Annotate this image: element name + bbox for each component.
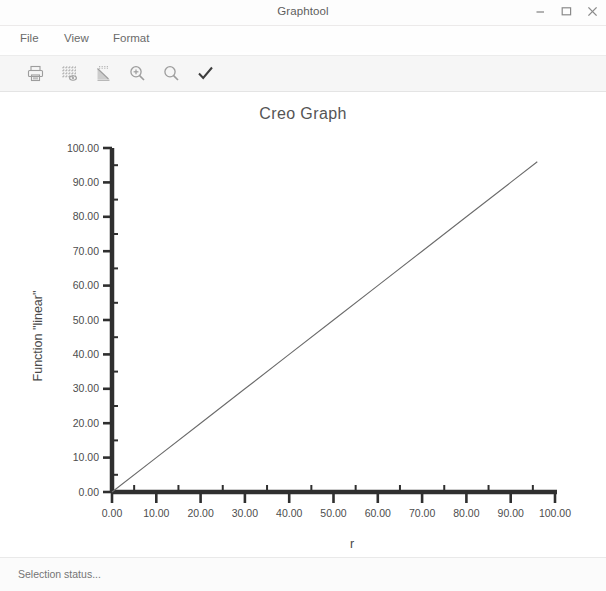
accept-button[interactable] xyxy=(192,61,218,87)
svg-text:20.00: 20.00 xyxy=(73,417,99,429)
svg-text:70.00: 70.00 xyxy=(409,507,435,519)
status-text: Selection status... xyxy=(18,568,101,580)
chart-svg: 0.0010.0020.0030.0040.0050.0060.0070.008… xyxy=(0,93,606,557)
close-button[interactable] xyxy=(585,4,600,19)
window-controls xyxy=(533,4,600,19)
svg-text:60.00: 60.00 xyxy=(73,279,99,291)
svg-text:50.00: 50.00 xyxy=(73,314,99,326)
checkmark-icon xyxy=(196,64,215,83)
svg-text:100.00: 100.00 xyxy=(539,507,571,519)
svg-text:80.00: 80.00 xyxy=(453,507,479,519)
svg-text:10.00: 10.00 xyxy=(143,507,169,519)
svg-text:60.00: 60.00 xyxy=(365,507,391,519)
window-title: Graphtool xyxy=(0,5,606,17)
grid-icon xyxy=(60,64,79,83)
svg-text:10.00: 10.00 xyxy=(73,451,99,463)
svg-text:50.00: 50.00 xyxy=(320,507,346,519)
toolbar xyxy=(0,55,606,92)
minimize-icon xyxy=(535,6,546,17)
minimize-button[interactable] xyxy=(533,4,548,19)
svg-text:0.00: 0.00 xyxy=(79,486,100,498)
graph-curve-icon xyxy=(94,64,113,83)
svg-text:30.00: 30.00 xyxy=(73,382,99,394)
svg-text:40.00: 40.00 xyxy=(276,507,302,519)
zoom-out-icon xyxy=(162,64,181,83)
menu-item-view[interactable]: View xyxy=(62,32,91,44)
status-bar: Selection status... xyxy=(0,557,606,591)
plot-area[interactable]: Creo Graph Function "linear" r 0.0010.00… xyxy=(0,93,606,557)
graph-style-button[interactable] xyxy=(90,61,116,87)
menu-item-file[interactable]: File xyxy=(18,32,41,44)
svg-text:0.00: 0.00 xyxy=(102,507,123,519)
printer-icon xyxy=(26,64,45,83)
svg-text:70.00: 70.00 xyxy=(73,245,99,257)
maximize-icon xyxy=(561,6,572,17)
zoom-in-icon xyxy=(128,64,147,83)
svg-text:30.00: 30.00 xyxy=(232,507,258,519)
menu-bar: File View Format xyxy=(0,26,606,52)
close-icon xyxy=(587,6,598,17)
zoom-out-button[interactable] xyxy=(158,61,184,87)
grid-settings-button[interactable] xyxy=(56,61,82,87)
svg-text:80.00: 80.00 xyxy=(73,210,99,222)
title-bar: Graphtool xyxy=(0,0,606,26)
graphtool-window: Graphtool File View Format xyxy=(0,0,606,591)
svg-text:20.00: 20.00 xyxy=(187,507,213,519)
print-button[interactable] xyxy=(22,61,48,87)
menu-item-format[interactable]: Format xyxy=(111,32,151,44)
zoom-in-button[interactable] xyxy=(124,61,150,87)
svg-text:90.00: 90.00 xyxy=(498,507,524,519)
svg-text:40.00: 40.00 xyxy=(73,348,99,360)
maximize-button[interactable] xyxy=(559,4,574,19)
svg-text:90.00: 90.00 xyxy=(73,176,99,188)
svg-text:100.00: 100.00 xyxy=(67,142,99,154)
